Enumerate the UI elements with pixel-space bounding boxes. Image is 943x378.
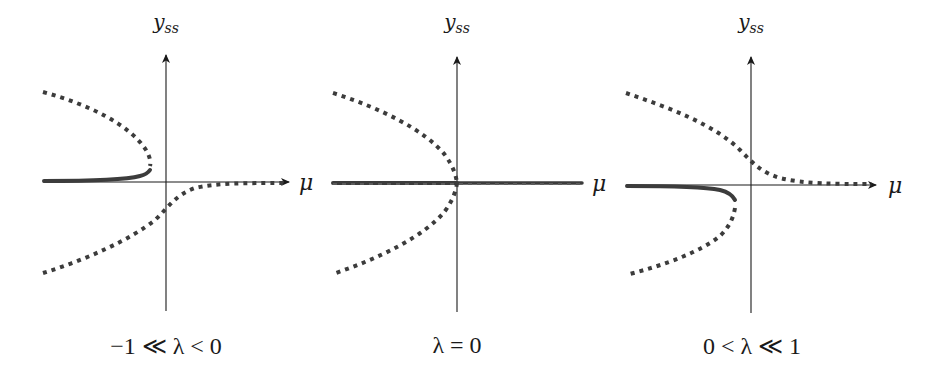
x-axis-label: μ [592,171,606,196]
panel-negative-lambda [43,55,289,311]
y-axis-label: yss [153,10,179,36]
bifurcation-figure: yss μ yss μ yss μ −1 ≪ λ < 0 λ = 0 0 < λ… [0,0,943,378]
stable-branch [627,186,735,200]
stable-branch [44,170,150,181]
lower-unstable-branch [333,183,457,274]
caption-zero-lambda: λ = 0 [432,332,481,359]
bifurcation-diagrams [0,0,943,378]
x-axis-label: μ [888,173,902,198]
caption-positive-lambda: 0 < λ ≪ 1 [703,332,801,360]
panel-positive-lambda [626,57,876,313]
panel-zero-lambda [332,57,583,312]
x-axis-label: μ [299,170,313,195]
y-axis-label: yss [738,10,764,36]
upper-unstable-branch [626,93,872,184]
upper-unstable-branch [43,92,150,166]
upper-unstable-branch [333,93,457,183]
y-axis-label: yss [444,10,470,36]
caption-negative-lambda: −1 ≪ λ < 0 [110,332,222,360]
lower-unstable-branch [626,208,735,275]
lower-unstable-branch [43,183,285,273]
